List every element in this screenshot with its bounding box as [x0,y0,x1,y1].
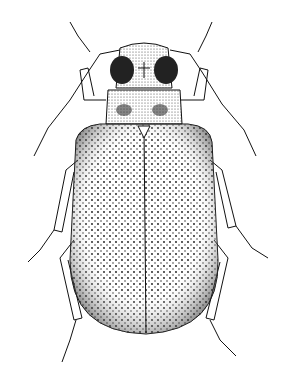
elytra [70,124,218,334]
head [110,43,178,88]
beetle-illustration [0,0,288,381]
beetle-drawing [0,0,288,381]
left-eye-icon [110,56,134,84]
pronotum [106,90,182,124]
right-eye-icon [154,56,178,84]
